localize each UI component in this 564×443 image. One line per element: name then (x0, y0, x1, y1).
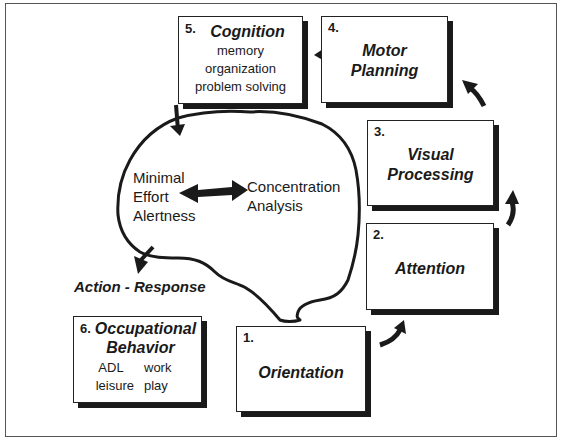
step-number: 4. (328, 20, 339, 35)
arrow-attention-to-visual (508, 202, 513, 225)
step-box-attention: 2. Attention (366, 223, 494, 310)
step-item: play (144, 377, 194, 395)
step-item: memory (179, 42, 302, 60)
arrow-orientation-to-attention (380, 330, 400, 345)
step-box-occupational-behavior: 6. Occupational Behavior ADL leisure wor… (73, 316, 202, 403)
step-box-motor-planning: 4. Motor Planning (321, 16, 448, 103)
brain-left-line: Minimal (133, 168, 196, 187)
arrow-visual-to-motor (470, 88, 484, 106)
brain-left-line: Alertness (133, 206, 196, 225)
step-item: problem solving (179, 78, 302, 96)
step-box-visual-processing: 3. Visual Processing (367, 120, 494, 206)
step-box-orientation: 1. Orientation (236, 326, 366, 412)
step-title-line: Visual (368, 145, 493, 164)
brain-left-text: Minimal Effort Alertness (133, 168, 196, 225)
step-title-line: Planning (322, 61, 447, 80)
step-title: Cognition (179, 22, 302, 41)
brain-left-line: Effort (133, 187, 196, 206)
step-box-cognition: 5. Cognition memory organization problem… (178, 16, 303, 104)
step-number: 3. (374, 124, 385, 139)
step-item: organization (179, 60, 302, 78)
step-title-line: Occupational (74, 319, 201, 338)
step-item: leisure (88, 377, 134, 395)
step-title-line: Processing (368, 165, 493, 184)
step-title: Orientation (237, 363, 365, 382)
brain-right-line: Concentration (247, 177, 340, 196)
step-title-line: Motor (322, 41, 447, 60)
step-title-line: Behavior (74, 338, 201, 357)
action-response-label: Action - Response (74, 278, 206, 295)
brain-right-text: Concentration Analysis (247, 177, 340, 215)
brain-right-line: Analysis (247, 196, 340, 215)
step-title: Attention (367, 259, 493, 278)
step-item: work (144, 359, 194, 377)
step-number: 1. (243, 330, 254, 345)
step-number: 2. (373, 227, 384, 242)
step-item: ADL (88, 359, 134, 377)
